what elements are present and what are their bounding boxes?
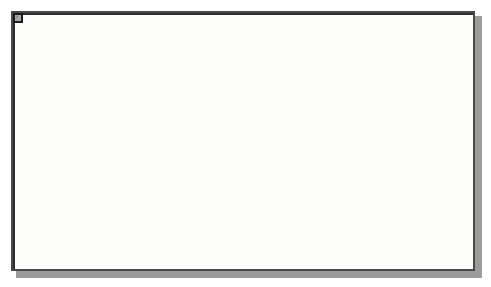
scan-artifacts-layer [13,13,473,269]
drawing-window-frame [11,11,475,271]
drawing-canvas [0,0,491,287]
first-corner-callout[interactable] [13,13,15,15]
